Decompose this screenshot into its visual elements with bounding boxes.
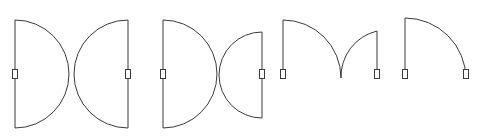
swing-arc	[341, 31, 377, 78]
symbol-double-door-quarter-swing	[281, 20, 380, 79]
leaf-right	[74, 20, 131, 128]
hinge-marker	[281, 70, 286, 79]
swing-arc	[405, 18, 466, 79]
symbol-double-door-full-swing-wide	[13, 20, 131, 128]
leaf-single	[403, 18, 469, 79]
leaf-right	[219, 32, 264, 118]
hinge-marker	[161, 70, 166, 79]
diagram-svg	[0, 0, 485, 140]
symbol-double-door-full-swing-unequal	[161, 20, 265, 128]
door-swing-diagram	[0, 0, 485, 140]
hinge-marker	[260, 70, 265, 79]
swing-arc	[219, 32, 262, 118]
symbol-single-door-quarter-swing	[403, 18, 469, 79]
strike-marker	[464, 70, 469, 79]
leaf-left	[161, 20, 218, 128]
leaf-right	[341, 31, 380, 79]
swing-arc	[15, 20, 69, 128]
hinge-marker	[126, 70, 131, 79]
swing-arc	[74, 20, 128, 128]
swing-arc	[283, 20, 341, 78]
leaf-left	[13, 20, 70, 128]
hinge-marker	[13, 70, 18, 79]
hinge-marker	[403, 70, 408, 79]
swing-arc	[163, 20, 217, 128]
leaf-left	[281, 20, 342, 79]
hinge-marker	[375, 70, 380, 79]
